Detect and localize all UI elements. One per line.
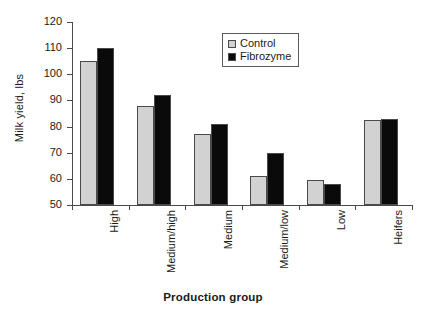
x-tick (185, 205, 186, 210)
x-tick-label: Low (334, 210, 348, 300)
x-tick (412, 205, 413, 210)
y-tick: 80 (67, 127, 72, 128)
x-tick (129, 205, 130, 210)
bar-chart-figure: Milk yield, lbs 5060708090100110120 High… (0, 0, 426, 319)
y-tick-label: 50 (50, 198, 62, 211)
bar-control (364, 120, 381, 205)
bar-fibrozyme (211, 124, 228, 205)
y-axis-title-text: Milk yield, lbs (13, 73, 25, 141)
legend-label-control: Control (240, 37, 275, 50)
x-tick-label: Heifers (391, 210, 405, 300)
y-tick: 110 (67, 48, 72, 49)
y-tick: 70 (67, 153, 72, 154)
bar-fibrozyme (381, 119, 398, 205)
x-tick-label: Medium/low (277, 210, 291, 300)
y-tick-label: 60 (50, 172, 62, 185)
x-tick (72, 205, 73, 210)
y-tick: 120 (67, 22, 72, 23)
x-tick (242, 205, 243, 210)
bar-control (194, 134, 211, 205)
legend-item-fibrozyme: Fibrozyme (228, 50, 291, 63)
y-tick: 90 (67, 100, 72, 101)
bar-control (250, 176, 267, 205)
y-tick-label: 110 (44, 41, 62, 54)
y-tick-label: 120 (44, 15, 62, 28)
x-tick-label: High (107, 210, 121, 300)
bar-control (137, 106, 154, 205)
x-axis-title: Production group (0, 291, 426, 303)
legend-label-fibrozyme: Fibrozyme (240, 50, 291, 63)
y-tick-label: 90 (50, 93, 62, 106)
bar-control (80, 61, 97, 205)
y-axis-title: Milk yield, lbs (8, 0, 30, 215)
y-tick-label: 100 (44, 67, 62, 80)
y-tick: 100 (67, 74, 72, 75)
bar-fibrozyme (154, 95, 171, 205)
x-tick (299, 205, 300, 210)
legend-item-control: Control (228, 37, 291, 50)
x-tick (355, 205, 356, 210)
y-tick: 60 (67, 179, 72, 180)
bar-fibrozyme (97, 48, 114, 205)
legend: Control Fibrozyme (222, 33, 299, 67)
legend-swatch-control-icon (228, 40, 236, 48)
x-tick-label: Medium (221, 210, 235, 300)
bar-fibrozyme (324, 184, 341, 205)
legend-swatch-fibrozyme-icon (228, 53, 236, 61)
bar-fibrozyme (267, 153, 284, 205)
y-tick-label: 70 (50, 146, 62, 159)
y-tick-label: 80 (50, 120, 62, 133)
bar-control (307, 180, 324, 205)
x-tick-label: Medium/high (164, 210, 178, 300)
